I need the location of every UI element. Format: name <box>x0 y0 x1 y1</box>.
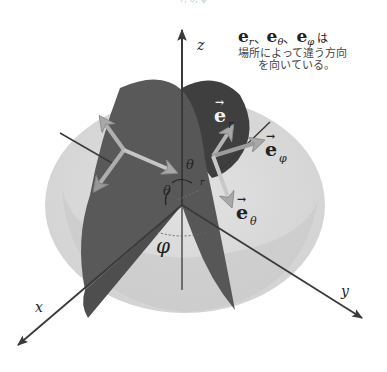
z-axis-label: z <box>196 37 205 53</box>
x-axis-label: x <box>35 299 43 315</box>
theta-upper-label: θ <box>186 157 194 172</box>
svg-text:→: → <box>266 130 275 143</box>
svg-text:θ: θ <box>250 215 257 228</box>
theta-lower-label: θ <box>163 183 171 198</box>
caption-line-2: を向いている。 <box>238 60 387 73</box>
caption: er、eθ、eφは 場所によって違う方向 を向いている。 <box>238 27 387 73</box>
phi-label: φ <box>156 234 170 258</box>
caption-e-r: er <box>238 26 254 46</box>
caption-e-phi: eφ <box>296 26 314 46</box>
caption-vectors: er、eθ、eφは <box>238 27 387 48</box>
r-label: r <box>200 177 205 187</box>
svg-text:→: → <box>215 96 224 109</box>
svg-text:→: → <box>237 193 246 206</box>
y-axis-label: y <box>340 283 350 299</box>
caption-e-theta: eθ <box>267 26 284 46</box>
svg-text:φ: φ <box>279 152 287 165</box>
svg-text:r: r <box>228 118 234 131</box>
